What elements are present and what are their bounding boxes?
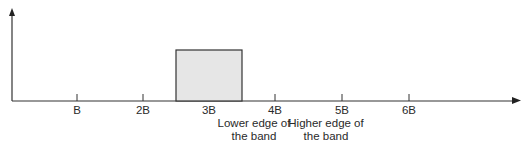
band-rectangle xyxy=(176,50,242,101)
tick-label-2b: 2B xyxy=(131,104,155,117)
y-axis-arrow-icon xyxy=(9,8,15,16)
tick-label-6b: 6B xyxy=(397,104,421,117)
tick-label-3b: 3B xyxy=(197,104,221,117)
x-axis-arrow-icon xyxy=(512,97,521,104)
tick-label-b: B xyxy=(67,104,87,117)
tick-label-4b: 4B xyxy=(263,104,287,117)
tick-label-5b: 5B xyxy=(330,104,354,117)
higher-edge-label: Higher edge of the band xyxy=(271,117,381,143)
